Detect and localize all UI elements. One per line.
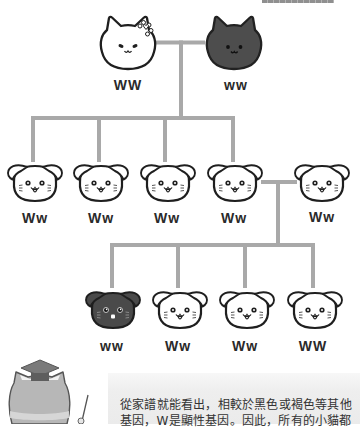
genotype-label: WW <box>106 77 150 93</box>
genotype-label: Ww <box>300 209 344 225</box>
white-cat-with-bow-icon <box>96 14 160 72</box>
gen3-kitten-1 <box>84 287 142 331</box>
caption-line-1: 從家譜就能看出，相較於黑色或褐色等其他 <box>120 397 360 413</box>
genotype-label: Ww <box>13 210 57 226</box>
gen2-kitten-2 <box>72 160 130 204</box>
genotype-label: ww <box>214 77 258 93</box>
black-fold-kitten-icon <box>84 287 142 331</box>
gen3-kitten-3 <box>218 287 276 331</box>
genotype-label: WW <box>291 338 335 354</box>
parent-white-cat <box>96 14 160 72</box>
caption-line-2: 基因，W是顯性基因。因此，所有的小貓都 <box>120 413 360 429</box>
genotype-label: Ww <box>79 210 123 226</box>
genotype-label: Ww <box>212 210 256 226</box>
gen2-kitten-3 <box>139 160 197 204</box>
gen3-kitten-4 <box>286 287 344 331</box>
gen2-kitten-1 <box>6 160 64 204</box>
parent-black-cat <box>202 14 266 72</box>
white-fold-kitten-icon <box>293 160 351 204</box>
black-cat-icon <box>202 14 266 72</box>
genotype-label: Ww <box>156 338 200 354</box>
genotype-label: ww <box>90 338 134 354</box>
gen2-kitten-5 <box>293 160 351 204</box>
genotype-label: Ww <box>223 338 267 354</box>
white-fold-kitten-icon <box>139 160 197 204</box>
gen2-kitten-4 <box>206 160 264 204</box>
white-fold-kitten-icon <box>6 160 64 204</box>
white-fold-kitten-icon <box>206 160 264 204</box>
gen3-kitten-2 <box>151 287 209 331</box>
white-fold-kitten-icon <box>286 287 344 331</box>
white-fold-kitten-icon <box>72 160 130 204</box>
white-fold-kitten-icon <box>218 287 276 331</box>
teacher-cat-with-mortarboard-icon <box>0 355 100 424</box>
genotype-label: Ww <box>145 210 189 226</box>
white-fold-kitten-icon <box>151 287 209 331</box>
